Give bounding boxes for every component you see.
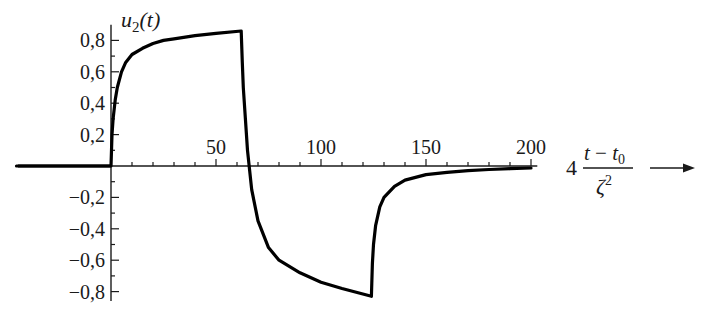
y-tick-label: −0,2 [69,186,105,208]
y-tick-label: 0,4 [80,92,105,114]
line-chart: 501001502000,80,60,40,2−0,2−0,4−0,6−0,8 … [0,0,707,311]
x-tick-label: 200 [516,136,546,158]
x-tick-label: 100 [306,136,336,158]
y-tick-label: 0,2 [80,124,105,146]
y-tick-label: −0,4 [69,218,105,240]
y-axis-title: u2(t) [121,7,160,35]
y-tick-label: −0,6 [69,249,105,271]
x-axis-title: 4 t − t0 ζ2 [566,141,695,199]
x-axis-denominator: ζ2 [596,173,612,199]
y-axis-title-main: u [121,7,132,32]
arrow-icon [650,164,695,173]
x-tick-label: 150 [411,136,441,158]
x-tick-label: 50 [206,136,226,158]
y-axis-title-sub: 2 [132,19,140,35]
y-axis-title-arg: (t) [140,7,161,32]
y-tick-label: 0,6 [80,61,105,83]
x-axis-numerator: t − t0 [584,141,625,167]
x-axis-coefficient: 4 [566,155,577,180]
y-tick-label: −0,8 [69,281,105,303]
tick-marks [111,40,531,291]
y-tick-label: 0,8 [80,29,105,51]
